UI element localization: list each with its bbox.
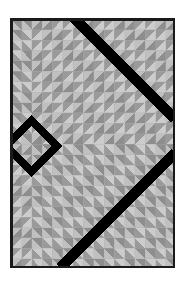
geometric-pattern-figure: Gray geometric tile pattern with black d…	[0, 0, 191, 283]
artwork-canvas: Gray geometric tile pattern with black d…	[0, 0, 191, 283]
